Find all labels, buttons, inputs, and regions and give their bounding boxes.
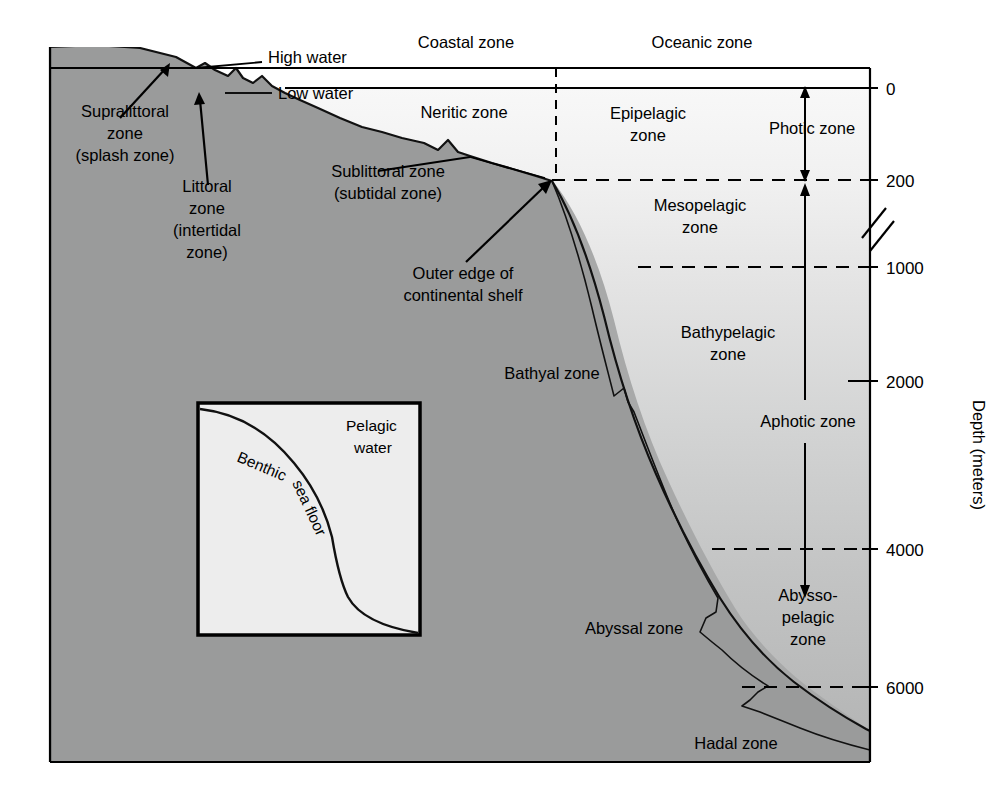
label-littoral-line2: zone: [189, 199, 225, 217]
label-bathyal-zone: Bathyal zone: [504, 364, 599, 382]
label-supralittoral-line2: zone: [107, 124, 143, 142]
label-supralittoral-line3: (splash zone): [75, 146, 174, 164]
tick-label-2000: 2000: [886, 373, 924, 392]
label-layer: Coastal zone Oceanic zone High water Low…: [0, 0, 1000, 802]
header-oceanic-zone: Oceanic zone: [652, 33, 753, 51]
axis-title-depth: Depth (meters): [970, 400, 988, 510]
annotation-continental-shelf-line2: continental shelf: [403, 286, 523, 304]
label-low-water: Low water: [278, 84, 354, 102]
label-photic-zone: Photic zone: [769, 119, 855, 137]
tick-label-200: 200: [886, 172, 914, 191]
tick-label-6000: 6000: [886, 679, 924, 698]
label-high-water: High water: [268, 48, 347, 66]
label-abyssopelagic-line1: Abysso-: [778, 586, 838, 604]
annotation-continental-shelf-line1: Outer edge of: [413, 264, 514, 282]
label-abyssopelagic-line2: pelagic: [782, 608, 834, 626]
label-epipelagic-line2: zone: [630, 126, 666, 144]
label-bathypelagic-line2: zone: [710, 345, 746, 363]
label-mesopelagic-line1: Mesopelagic: [654, 196, 747, 214]
label-abyssopelagic-line3: zone: [790, 630, 826, 648]
label-epipelagic-line1: Epipelagic: [610, 104, 686, 122]
label-littoral-line4: zone): [186, 243, 227, 261]
label-neritic-zone: Neritic zone: [420, 103, 507, 121]
tick-label-1000: 1000: [886, 259, 924, 278]
label-aphotic-zone: Aphotic zone: [760, 412, 855, 430]
label-abyssal-zone: Abyssal zone: [585, 619, 683, 637]
figure-canvas: Pelagic water Benthic sea floor Coastal …: [0, 0, 1000, 802]
label-littoral-line1: Littoral: [182, 177, 232, 195]
header-coastal-zone: Coastal zone: [418, 33, 514, 51]
label-littoral-line3: (intertidal: [173, 221, 241, 239]
label-supralittoral-line1: Supralittoral: [81, 102, 169, 120]
label-sublittoral-line1: Sublittoral zone: [331, 162, 445, 180]
tick-label-4000: 4000: [886, 541, 924, 560]
label-bathypelagic-line1: Bathypelagic: [681, 323, 775, 341]
tick-label-0: 0: [886, 80, 895, 99]
label-sublittoral-line2: (subtidal zone): [334, 184, 442, 202]
label-mesopelagic-line2: zone: [682, 218, 718, 236]
label-hadal-zone: Hadal zone: [694, 734, 777, 752]
